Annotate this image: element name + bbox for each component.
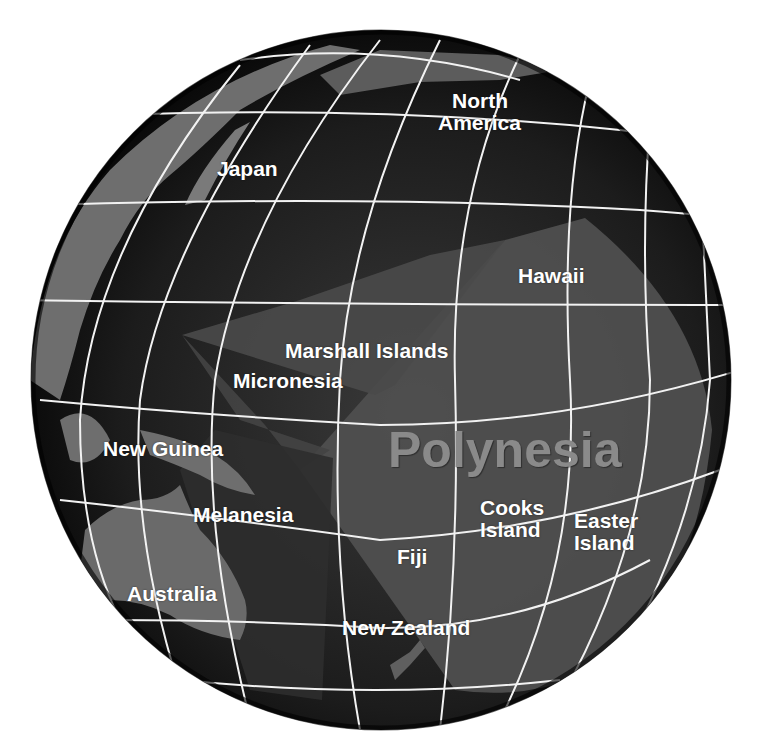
label-melanesia: Melanesia bbox=[193, 504, 293, 526]
label-cooks-island-line1: Cooks bbox=[480, 497, 544, 519]
label-fiji: Fiji bbox=[397, 546, 427, 568]
label-marshall-islands: Marshall Islands bbox=[285, 340, 448, 362]
label-north-america-line2: America bbox=[438, 112, 521, 134]
label-north-america-line1: North bbox=[438, 90, 521, 112]
label-australia: Australia bbox=[127, 583, 217, 605]
label-new-guinea: New Guinea bbox=[103, 438, 223, 460]
label-cooks-island-line2: Island bbox=[480, 519, 544, 541]
label-cooks-island: Cooks Island bbox=[480, 497, 544, 541]
label-north-america: North America bbox=[438, 90, 521, 134]
label-new-zealand: New Zealand bbox=[342, 617, 470, 639]
label-japan: Japan bbox=[217, 158, 278, 180]
pacific-globe-map: North America Japan Hawaii Marshall Isla… bbox=[0, 0, 759, 746]
label-easter-island-line2: Island bbox=[574, 532, 638, 554]
label-micronesia: Micronesia bbox=[233, 370, 343, 392]
label-polynesia: Polynesia bbox=[388, 425, 621, 475]
label-easter-island-line1: Easter bbox=[574, 510, 638, 532]
label-easter-island: Easter Island bbox=[574, 510, 638, 554]
label-hawaii: Hawaii bbox=[518, 265, 585, 287]
